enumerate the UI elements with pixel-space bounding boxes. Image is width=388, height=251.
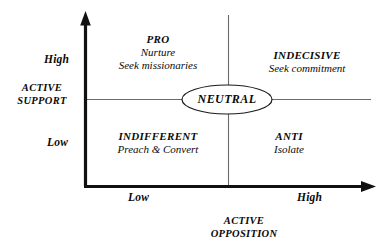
quadrant-indifferent-title: INDIFFERENT bbox=[92, 130, 224, 143]
quadrant-pro-title: PRO bbox=[96, 33, 220, 46]
quadrant-pro-line-2: Seek missionaries bbox=[96, 59, 220, 72]
quadrant-indecisive: INDECISIVE Seek commitment bbox=[240, 49, 374, 75]
x-axis-title-line2: OPPOSITION bbox=[211, 228, 278, 239]
quadrant-indifferent: INDIFFERENT Preach & Convert bbox=[92, 130, 224, 156]
quadrant-pro-line-1: Nurture bbox=[96, 46, 220, 59]
neutral-label: NEUTRAL bbox=[182, 92, 272, 107]
quadrant-anti-title: ANTI bbox=[241, 130, 337, 143]
x-axis-title: ACTIVE OPPOSITION bbox=[178, 215, 310, 241]
y-axis-title-line2: SUPPORT bbox=[17, 95, 66, 106]
quadrant-indecisive-title: INDECISIVE bbox=[240, 49, 374, 62]
y-axis-low-label: Low bbox=[47, 136, 68, 150]
x-axis-high-label: High bbox=[297, 191, 322, 205]
quadrant-indifferent-line-1: Preach & Convert bbox=[92, 143, 224, 156]
y-axis-title-line1: ACTIVE bbox=[22, 82, 62, 93]
y-axis-arrowhead bbox=[80, 11, 91, 26]
quadrant-anti: ANTI Isolate bbox=[241, 130, 337, 156]
quadrant-pro: PRO Nurture Seek missionaries bbox=[96, 33, 220, 73]
y-axis-title: ACTIVE SUPPORT bbox=[5, 82, 79, 108]
quadrant-diagram: High Low ACTIVE SUPPORT Low High ACTIVE … bbox=[0, 0, 388, 251]
x-axis-low-label: Low bbox=[128, 191, 149, 205]
x-axis-arrowhead bbox=[361, 181, 376, 192]
x-axis-title-line1: ACTIVE bbox=[224, 215, 264, 226]
quadrant-indecisive-line-1: Seek commitment bbox=[240, 62, 374, 75]
y-axis-high-label: High bbox=[44, 53, 69, 67]
quadrant-anti-line-1: Isolate bbox=[241, 143, 337, 156]
